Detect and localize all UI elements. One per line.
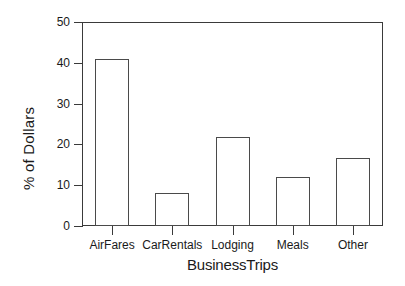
x-axis-tick-label: CarRentals — [142, 239, 202, 252]
x-axis-tick — [233, 226, 234, 235]
bar — [216, 137, 250, 226]
bar — [276, 177, 310, 226]
y-axis-tick-label: 0 — [44, 220, 70, 232]
x-axis-tick — [353, 226, 354, 235]
x-axis-tick-label: Other — [338, 239, 368, 252]
y-axis-tick — [74, 226, 83, 227]
y-axis-tick-label: 20 — [44, 138, 70, 150]
x-axis-tick — [172, 226, 173, 235]
y-axis-tick-label: 10 — [44, 179, 70, 191]
bar — [155, 193, 189, 226]
x-axis-tick-label: Meals — [277, 239, 309, 252]
bar-series — [82, 22, 383, 226]
bar — [95, 59, 129, 226]
x-axis-title: BusinessTrips — [82, 256, 383, 273]
x-axis-tick-label: AirFares — [89, 239, 134, 252]
y-axis-tick-label: 40 — [44, 57, 70, 69]
bar-chart-figure: % of Dollars 01020304050 AirFaresCarRent… — [0, 0, 405, 286]
x-axis-tick — [112, 226, 113, 235]
x-axis-tick-label: Lodging — [211, 239, 254, 252]
y-axis-tick-labels: 01020304050 — [40, 0, 70, 286]
x-axis-tick — [293, 226, 294, 235]
y-axis-tick-label: 50 — [44, 16, 70, 28]
bar — [336, 158, 370, 226]
y-axis-tick-label: 30 — [44, 98, 70, 110]
